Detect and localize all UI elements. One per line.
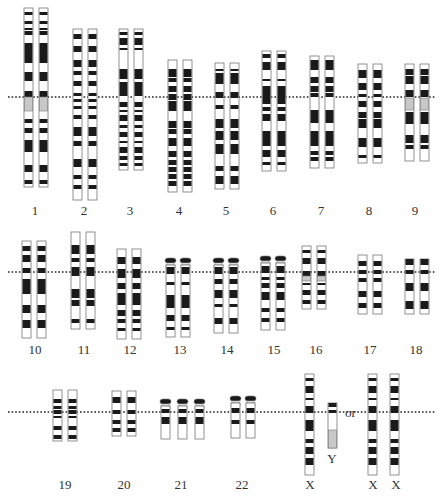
dark-band <box>277 283 285 288</box>
dark-band <box>169 69 177 77</box>
dark-band <box>89 115 97 119</box>
dark-band <box>359 155 367 158</box>
dark-band <box>135 102 143 107</box>
dark-band <box>216 119 224 128</box>
dark-band <box>278 107 286 111</box>
dark-band <box>184 78 192 82</box>
dark-band <box>262 277 270 280</box>
dark-band <box>421 76 429 84</box>
dark-band <box>277 292 285 300</box>
dark-band <box>326 86 334 92</box>
dark-band <box>40 140 48 152</box>
chromatid-19-2 <box>68 390 77 441</box>
dark-band <box>232 408 240 413</box>
dark-band <box>263 162 271 165</box>
chromosome-14 <box>213 258 239 333</box>
dark-band <box>262 292 270 300</box>
dark-band <box>89 106 97 109</box>
satellite-icon <box>260 256 271 261</box>
chromosome-X-female-1 <box>368 374 377 475</box>
dark-band <box>326 77 334 83</box>
dark-band <box>303 250 311 253</box>
heterochromatin-band <box>25 97 33 111</box>
chromatid-6-2 <box>277 51 286 171</box>
dark-band <box>87 267 95 276</box>
dark-band <box>74 185 82 189</box>
dark-band <box>120 102 128 107</box>
dark-band <box>326 151 334 155</box>
chromatid-10-1 <box>22 241 31 338</box>
dark-band <box>278 54 286 58</box>
dark-band <box>74 115 82 119</box>
dark-band <box>306 398 314 400</box>
chromosome-label-Y: Y <box>327 452 336 465</box>
dark-band <box>89 71 97 75</box>
chromosome-4 <box>168 60 192 192</box>
dark-band <box>87 258 95 262</box>
dark-band <box>303 258 311 264</box>
dark-band <box>120 69 128 79</box>
dark-band <box>128 410 136 414</box>
dark-band <box>278 79 286 81</box>
dark-band <box>196 409 204 413</box>
chromosome-X-female-2 <box>390 374 399 475</box>
dark-band <box>25 140 33 152</box>
dark-band <box>216 131 224 140</box>
dark-band <box>406 90 414 97</box>
dark-band <box>167 315 175 321</box>
dark-band <box>230 267 238 274</box>
dark-band <box>369 439 377 443</box>
dark-band <box>38 255 46 262</box>
dark-band <box>135 110 143 112</box>
chromatid-15-1 <box>260 256 271 330</box>
dark-band <box>74 34 82 39</box>
dark-band <box>54 410 62 414</box>
dark-band <box>277 266 285 273</box>
dark-band <box>169 151 177 157</box>
dark-band <box>72 319 80 323</box>
dark-band <box>74 106 82 109</box>
chromosome-5 <box>215 63 239 189</box>
dark-band <box>359 138 367 147</box>
dark-band <box>54 416 62 418</box>
dark-band <box>311 131 319 146</box>
dark-band <box>89 185 97 189</box>
dark-band <box>38 320 46 328</box>
dark-band <box>169 121 177 128</box>
dark-band <box>69 410 77 414</box>
chromosome-label-13: 13 <box>174 343 187 356</box>
dark-band <box>69 435 77 439</box>
dark-band <box>374 303 382 308</box>
dark-band <box>133 293 141 305</box>
dark-band <box>74 60 82 67</box>
heterochromatin-band <box>318 276 326 281</box>
dark-band <box>184 167 192 172</box>
dark-band <box>184 86 192 92</box>
dark-band <box>326 110 334 123</box>
dark-band <box>40 72 48 81</box>
chromatid-11-1 <box>71 232 80 329</box>
dark-band <box>118 319 126 323</box>
dark-band <box>25 119 33 123</box>
dark-band <box>135 32 143 35</box>
dark-band <box>231 131 239 140</box>
dark-band <box>72 289 80 298</box>
dark-band <box>69 399 77 403</box>
dark-band <box>40 43 48 63</box>
dark-band <box>374 119 382 128</box>
dark-band <box>167 327 175 330</box>
chromosome-label-7: 7 <box>318 204 325 217</box>
dark-band <box>359 112 367 118</box>
dark-band <box>118 257 126 264</box>
dark-band <box>230 279 238 284</box>
satellite-icon <box>177 399 188 404</box>
dark-band <box>359 278 367 282</box>
dark-band <box>89 81 97 86</box>
dark-band <box>374 70 382 78</box>
dark-band <box>311 77 319 83</box>
chromosome-17 <box>358 255 382 314</box>
heterochromatin-band <box>406 98 414 110</box>
dark-band <box>231 92 239 98</box>
dark-band <box>118 328 126 331</box>
chromatid-7-2 <box>325 56 334 168</box>
